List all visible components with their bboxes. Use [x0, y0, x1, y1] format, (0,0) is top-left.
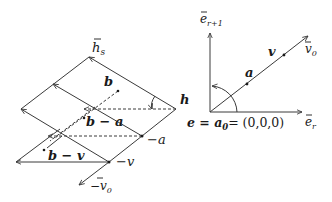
label-h: h — [180, 92, 189, 107]
angle-arc-h — [151, 96, 155, 109]
point-minus-v — [108, 161, 111, 164]
vector-v0 — [210, 36, 308, 112]
point-minus-a — [141, 135, 144, 138]
point-v — [283, 54, 286, 57]
point-b — [117, 90, 120, 93]
label-v0: v0 — [305, 42, 317, 58]
label-e-r1: er+1 — [200, 12, 223, 28]
label-minus-v: −v — [116, 154, 135, 169]
hs-vector — [89, 57, 176, 109]
point-b-minus-a — [83, 117, 86, 120]
label-b-minus-v: b − v — [48, 148, 85, 163]
label-hs: hs — [92, 40, 105, 57]
label-e-r: er — [305, 115, 317, 131]
label-minus-a: −a — [147, 132, 166, 147]
label-a: a — [245, 65, 253, 80]
label-minus-v0: −v0 — [90, 179, 112, 195]
right-figure — [210, 33, 308, 112]
label-b-minus-a: b − a — [86, 114, 123, 129]
diagram-canvas: hs b b − a b − v h −a −v −v0 er+1 er v0 … — [0, 0, 332, 202]
label-b: b — [104, 74, 113, 89]
label-origin-equation: e = a0= (0,0,0) — [187, 115, 284, 132]
point-b-minus-v — [43, 149, 46, 152]
point-a — [246, 83, 249, 86]
left-edge-top — [21, 57, 89, 109]
label-v: v — [268, 44, 276, 59]
